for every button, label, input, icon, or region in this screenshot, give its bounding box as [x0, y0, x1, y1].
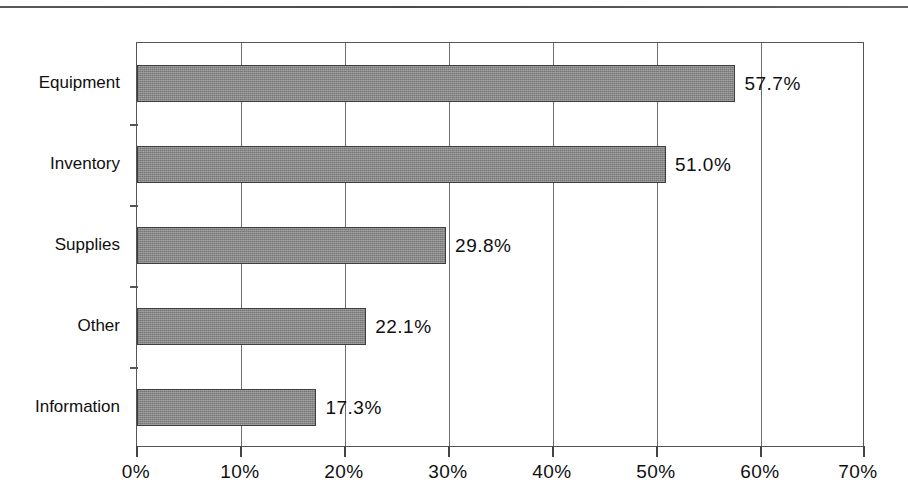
x-axis-tick — [656, 446, 658, 457]
horizontal-bar-chart: Equipment Inventory Supplies Other Infor… — [0, 0, 908, 501]
bar-other[interactable] — [137, 308, 366, 345]
y-axis-label-other: Other — [0, 285, 128, 366]
bar-equipment[interactable] — [137, 65, 735, 102]
x-axis-tick — [760, 446, 762, 457]
x-axis-tick — [344, 446, 346, 457]
bar-row: 57.7% — [137, 43, 863, 124]
x-axis-tick-label: 20% — [324, 461, 364, 483]
x-axis-tick — [136, 446, 138, 457]
bar-supplies[interactable] — [137, 227, 446, 264]
y-axis-label-text: Information — [35, 397, 120, 417]
bar-row: 22.1% — [137, 286, 863, 367]
plot-area: 57.7% 51.0% 29.8% 22.1% 17.3% — [136, 42, 864, 447]
bar-value-supplies: 29.8% — [455, 235, 511, 257]
x-axis-tick — [863, 446, 865, 457]
x-axis-tick — [240, 446, 242, 457]
y-axis-label-equipment: Equipment — [0, 42, 128, 123]
bar-value-equipment: 57.7% — [744, 73, 800, 95]
bar-inventory[interactable] — [137, 146, 666, 183]
bar-row: 17.3% — [137, 367, 863, 448]
y-axis-label-text: Supplies — [55, 235, 120, 255]
x-axis-tick-label: 60% — [740, 461, 780, 483]
x-axis-tick-label: 30% — [428, 461, 468, 483]
bar-information[interactable] — [137, 389, 316, 426]
x-axis-tick-label: 10% — [220, 461, 260, 483]
y-axis-label-text: Inventory — [50, 154, 120, 174]
x-axis-tick — [552, 446, 554, 457]
bar-row: 51.0% — [137, 124, 863, 205]
bar-value-other: 22.1% — [375, 316, 431, 338]
x-axis-tick-label: 50% — [636, 461, 676, 483]
x-axis-tick-label: 0% — [122, 461, 150, 483]
y-axis-label-inventory: Inventory — [0, 123, 128, 204]
bar-value-information: 17.3% — [325, 397, 381, 419]
x-axis-tick-label: 70% — [838, 461, 878, 483]
x-axis: 0% 10% 20% 30% 40% 50% 60% 70% — [136, 447, 864, 501]
y-axis-label-supplies: Supplies — [0, 204, 128, 285]
bar-value-inventory: 51.0% — [675, 154, 731, 176]
y-axis-label-text: Equipment — [39, 73, 120, 93]
y-axis-label-text: Other — [77, 316, 120, 336]
y-axis-label-information: Information — [0, 366, 128, 447]
x-axis-tick — [448, 446, 450, 457]
y-axis-category-labels: Equipment Inventory Supplies Other Infor… — [0, 42, 128, 447]
bar-row: 29.8% — [137, 205, 863, 286]
x-axis-tick-label: 40% — [532, 461, 572, 483]
